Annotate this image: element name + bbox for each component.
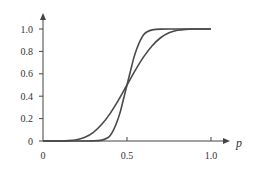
series	[43, 29, 211, 141]
y-tick-label: 0	[28, 136, 33, 147]
x-axis-arrow-icon	[223, 138, 230, 144]
y-tick-label: 0.8	[21, 46, 34, 57]
y-axis-arrow-icon	[40, 13, 46, 20]
y-tick-label: 0.4	[21, 91, 34, 102]
axes: p	[40, 13, 242, 150]
x-tick-label: 1.0	[205, 150, 218, 161]
x-tick-label: 0	[41, 150, 46, 161]
series-line-steep-sigmoid	[43, 29, 211, 141]
y-tick-label: 0.2	[21, 113, 34, 124]
y-tick-label: 0.6	[21, 68, 34, 79]
x-axis-label: p	[235, 136, 242, 150]
chart: p 00.51.000.20.40.60.81.0	[0, 0, 253, 170]
y-tick-label: 1.0	[21, 24, 34, 35]
x-tick-label: 0.5	[121, 150, 134, 161]
